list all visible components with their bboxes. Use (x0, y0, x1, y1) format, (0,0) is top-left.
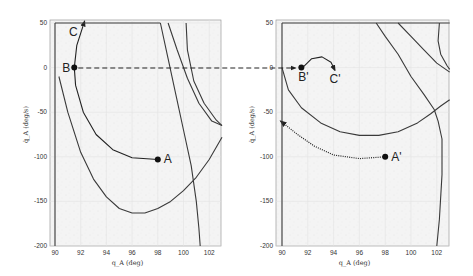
point-c-label: C' (330, 72, 341, 86)
y-tick-label: -50 (264, 108, 274, 115)
x-tick-label: 94 (330, 249, 338, 256)
point-a-marker (382, 154, 388, 160)
point-c-label: C (69, 25, 78, 39)
y-axis-label: q̇_A (deg/s) (248, 106, 256, 143)
y-tick-label: -200 (260, 242, 273, 249)
y-tick-label: 0 (43, 64, 47, 71)
point-a-label: A' (391, 150, 401, 164)
x-tick-label: 100 (406, 249, 417, 256)
y-axis-label: q̇_A (deg/s) (22, 106, 30, 143)
y-tick-label: 50 (40, 19, 48, 26)
x-axis-label: q_A (deg) (112, 259, 144, 267)
y-tick-label: -50 (38, 108, 48, 115)
x-tick-label: 96 (356, 249, 364, 256)
y-tick-label: -150 (260, 197, 273, 204)
y-tick-label: -150 (34, 197, 47, 204)
point-b-label: B' (298, 70, 308, 84)
x-tick-label: 90 (51, 249, 59, 256)
x-tick-label: 98 (154, 249, 162, 256)
x-tick-label: 90 (278, 249, 286, 256)
right-phase-plot: 9092949698100102500-50-100-150-200q_A (d… (248, 19, 450, 267)
y-tick-label: -200 (34, 242, 47, 249)
x-tick-label: 98 (382, 249, 390, 256)
point-a-marker (155, 156, 161, 162)
x-tick-label: 100 (178, 249, 189, 256)
y-tick-label: -100 (260, 153, 273, 160)
y-tick-label: 0 (269, 64, 273, 71)
y-tick-label: -100 (34, 153, 47, 160)
phase-portrait-figure: 9092949698100102500-50-100-150-200q_A (d… (0, 0, 473, 276)
x-tick-label: 102 (431, 249, 442, 256)
point-a-label: A (164, 152, 172, 166)
x-axis-label: q_A (deg) (339, 259, 371, 267)
plot-area (276, 20, 449, 246)
x-tick-label: 94 (103, 249, 111, 256)
x-tick-label: 92 (304, 249, 312, 256)
y-tick-label: 50 (266, 19, 274, 26)
point-b-label: B (62, 61, 70, 75)
x-tick-label: 96 (128, 249, 136, 256)
left-phase-plot: 9092949698100102500-50-100-150-200q_A (d… (22, 19, 222, 267)
x-tick-label: 102 (204, 249, 215, 256)
point-b-marker (71, 65, 77, 71)
x-tick-label: 92 (77, 249, 85, 256)
